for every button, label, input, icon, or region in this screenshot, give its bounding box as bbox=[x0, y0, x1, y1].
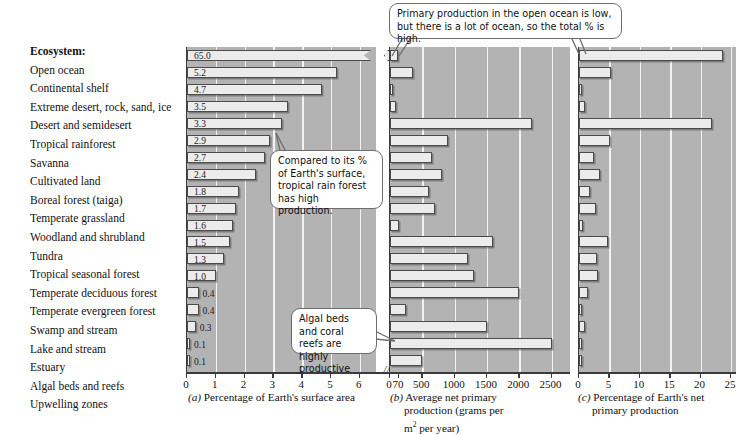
open-ocean-callout: Primary production in the open ocean is … bbox=[389, 3, 622, 39]
rainforest-callout: Compared to its % of Earth's surface, tr… bbox=[270, 150, 383, 209]
rainforest-callout-text: Compared to its % of Earth's surface, tr… bbox=[278, 155, 367, 216]
open-ocean-callout-text: Primary production in the open ocean is … bbox=[397, 8, 611, 44]
algal-callout-text: Algal beds and coral reefs are highly pr… bbox=[299, 313, 350, 374]
algal-callout: Algal beds and coral reefs are highly pr… bbox=[291, 308, 377, 354]
